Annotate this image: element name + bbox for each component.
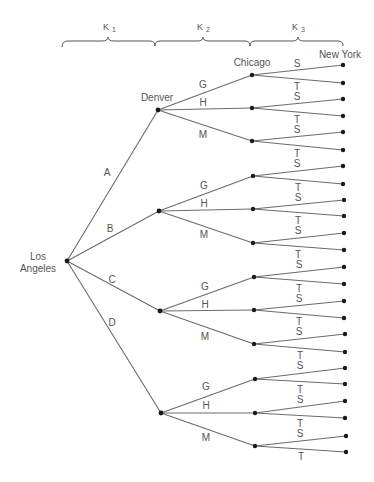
svg-text:M: M [200,229,208,240]
svg-text:G: G [199,79,207,90]
svg-text:S: S [296,326,303,337]
node-denver [159,411,164,416]
node-denver [156,108,161,113]
svg-text:S: S [296,293,303,304]
svg-text:S: S [294,158,301,169]
svg-text:S: S [297,428,304,439]
brace-k1 [62,37,155,47]
svg-text:H: H [199,97,206,108]
node-denver [158,309,163,314]
svg-text:H: H [201,299,208,310]
svg-text:S: S [294,58,301,69]
brace-k3 [250,37,343,46]
svg-text:S: S [294,91,301,102]
svg-text:T: T [298,451,304,462]
label-denver: Denver [141,92,174,103]
svg-text:D: D [108,317,115,328]
tree-edges [67,65,346,452]
third-branch-labels: S T S T S T S T S T S T S T S T S T S T … [294,58,304,462]
label-los-angeles-1: Los [30,251,46,262]
brace-k2 [155,37,250,46]
node-denver [157,209,162,214]
svg-text:G: G [200,180,208,191]
svg-text:M: M [202,432,210,443]
svg-text:C: C [108,274,115,285]
decision-tree-diagram: K1 K2 K3 [0,0,374,482]
label-chicago: Chicago [234,57,271,68]
stage-braces [62,37,343,47]
label-los-angeles-2: Angeles [20,263,56,274]
svg-text:M: M [201,331,209,342]
svg-text:G: G [201,281,209,292]
svg-text:S: S [295,225,302,236]
svg-text:M: M [199,129,207,140]
node-los-angeles [65,259,70,264]
stage-label-k3: K3 [292,22,305,33]
svg-text:G: G [202,381,210,392]
svg-text:A: A [104,167,111,178]
stage-label-k2: K2 [197,22,210,33]
svg-text:S: S [296,259,303,270]
city-labels: Los Angeles Denver Chicago New York [20,49,362,274]
stage-label-k1: K1 [103,22,116,33]
svg-text:H: H [200,198,207,209]
svg-text:S: S [295,192,302,203]
svg-text:B: B [107,223,114,234]
tree-nodes [65,63,349,454]
svg-text:S: S [297,360,304,371]
svg-text:S: S [294,124,301,135]
label-new-york: New York [319,49,362,60]
svg-text:H: H [202,400,209,411]
second-branch-labels: G H M G H M G H M G H M [199,79,210,443]
svg-text:S: S [297,394,304,405]
stage-labels: K1 K2 K3 [103,22,305,33]
